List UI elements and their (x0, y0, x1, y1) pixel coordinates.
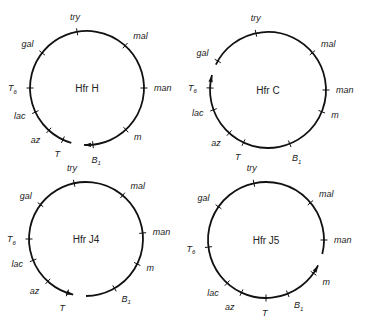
gene-marker-tick (139, 233, 146, 234)
gene-label: lac (12, 259, 24, 269)
gene-label: B1 (122, 294, 131, 306)
transfer-direction-arrow-icon (208, 75, 212, 82)
gene-label: m (322, 277, 330, 287)
strain-title: Hfr C (256, 85, 279, 96)
gene-label: B1 (294, 300, 303, 312)
gene-label: lac (14, 111, 26, 121)
diagram-hfr-j5: Hfr J5trymalmanmB1TazlacT6gal (187, 163, 352, 318)
gene-label: az (30, 286, 40, 296)
gene-label: try (67, 163, 77, 173)
gene-marker-tick (73, 180, 74, 187)
gene-label: gal (198, 193, 211, 203)
gene-label: gal (20, 191, 33, 201)
strain-title: Hfr H (75, 83, 98, 94)
gene-label: T (262, 308, 269, 318)
gene-label: az (225, 302, 235, 312)
gene-label: az (31, 135, 41, 145)
gene-marker-tick (255, 30, 256, 37)
gene-label: az (211, 138, 221, 148)
transfer-direction-arrow-icon (84, 143, 91, 147)
gene-label: mal (133, 31, 149, 41)
gene-label: gal (197, 48, 210, 58)
gene-marker-tick (76, 28, 77, 35)
gene-label: man (153, 227, 171, 237)
gene-label: m (134, 132, 142, 142)
gene-label: T6 (7, 234, 17, 246)
gene-label: try (70, 12, 80, 22)
gene-label: man (154, 83, 172, 93)
gene-label: T6 (187, 244, 197, 256)
transfer-direction-arrow-icon (313, 265, 318, 272)
diagram-hfr-j4: Hfr J4trymalmanmB1TazlacT6gal (7, 163, 170, 312)
gene-label: m (147, 263, 155, 273)
gene-label: lac (207, 288, 219, 298)
gene-marker-tick (93, 141, 94, 148)
diagram-hfr-c: Hfr CtrymalmanmB1TazlacT6gal (188, 13, 354, 164)
gene-label: mal (321, 39, 337, 49)
gene-label: T (60, 303, 67, 313)
gene-label: T6 (8, 83, 18, 95)
gene-label: lac (192, 108, 204, 118)
gene-label: T6 (188, 83, 198, 95)
gene-label: try (251, 13, 261, 23)
gene-label: gal (21, 39, 34, 49)
diagram-hfr-h: Hfr HtrymalmanmB1TazlacT6gal (8, 12, 172, 166)
gene-label: mal (319, 189, 335, 199)
gene-label: B1 (292, 153, 301, 165)
gene-marker-tick (205, 247, 212, 248)
gene-label: man (336, 85, 354, 95)
gene-label: mal (131, 181, 147, 191)
strain-title: Hfr J4 (73, 234, 100, 245)
gene-label: man (334, 235, 352, 245)
gene-label: try (247, 163, 257, 173)
strain-title: Hfr J5 (253, 235, 280, 246)
gene-label: B1 (92, 155, 101, 167)
gene-marker-tick (253, 180, 254, 187)
hfr-conjugation-maps: Hfr HtrymalmanmB1TazlacT6galHfr Ctrymalm… (0, 0, 366, 324)
gene-label: m (331, 110, 339, 120)
gene-label: T (54, 149, 61, 159)
gene-label: T (235, 152, 242, 162)
